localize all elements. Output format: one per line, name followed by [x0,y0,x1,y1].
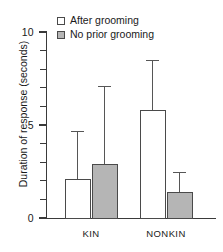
error-bar-cap [71,131,84,132]
group-label-nonkin: NONKIN [146,228,185,239]
error-bar-stem [104,86,105,164]
error-bar-stem [77,131,78,179]
legend-label: After grooming [70,15,139,26]
error-bar-stem [179,172,180,192]
y-tick [39,217,47,218]
y-tick-label: 5 [28,120,37,131]
y-tick [39,124,47,125]
legend-swatch-open [57,17,65,25]
legend-item: After grooming [57,14,154,27]
legend-item: No prior grooming [57,28,154,41]
legend-label: No prior grooming [70,29,154,40]
bar-chart-figure: Duration of response (seconds) 1050 KINN… [0,0,223,252]
bar [167,192,193,219]
y-tick [40,180,47,181]
y-tick-label: 10 [22,27,37,38]
bar [92,164,118,219]
y-tick [40,87,47,88]
y-tick [40,50,47,51]
y-axis-title: Duration of response (seconds) [17,29,29,199]
bar [65,179,91,219]
legend-swatch-filled [57,31,65,39]
group-label-kin: KIN [82,228,99,239]
y-tick [39,31,47,32]
error-bar-cap [98,86,111,87]
legend: After groomingNo prior grooming [57,14,154,42]
error-bar-cap [146,60,159,61]
y-tick [40,69,47,70]
y-tick [40,143,47,144]
y-tick-label: 0 [28,213,37,224]
error-bar-stem [152,60,153,110]
y-tick [40,162,47,163]
y-tick [40,199,47,200]
bar [140,110,166,219]
y-tick [40,106,47,107]
error-bar-cap [173,172,186,173]
